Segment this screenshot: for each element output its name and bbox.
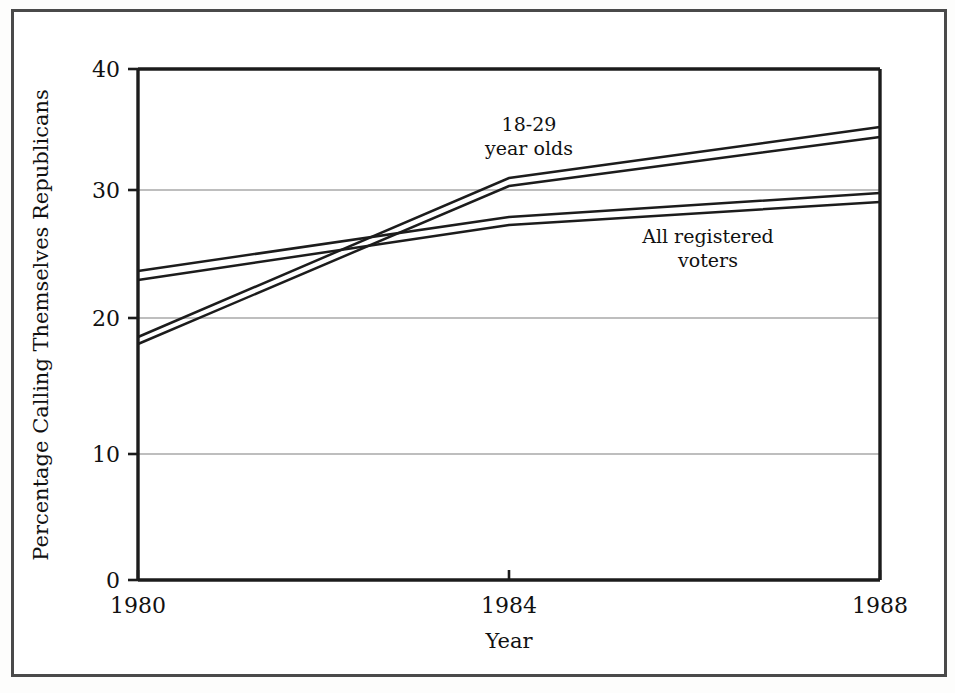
x-tick-label-1988: 1988 (852, 593, 908, 618)
figure-canvas: 40 30 20 10 0 1980 1984 1988 Percentage … (0, 0, 955, 693)
y-tick-label-30: 30 (92, 178, 120, 203)
annotation-youth-line1: 18-29 (502, 113, 557, 135)
x-axis-title: Year (484, 629, 533, 653)
annotation-youth-line2: year olds (484, 137, 573, 159)
x-tick-labels: 1980 1984 1988 (110, 593, 908, 618)
annotation-voters-line2: voters (677, 249, 738, 271)
y-tick-labels: 40 30 20 10 0 (92, 57, 120, 593)
y-tick-label-40: 40 (92, 57, 120, 82)
y-tick-label-20: 20 (92, 306, 120, 331)
annotation-all-registered-voters: All registered voters (641, 225, 774, 271)
y-tick-label-10: 10 (92, 442, 120, 467)
x-tick-label-1984: 1984 (481, 593, 537, 618)
annotation-18-29-year-olds: 18-29 year olds (484, 113, 573, 159)
x-tick-label-1980: 1980 (110, 593, 166, 618)
line-chart: 40 30 20 10 0 1980 1984 1988 Percentage … (0, 0, 955, 693)
annotation-voters-line1: All registered (641, 225, 774, 247)
y-axis-title: Percentage Calling Themselves Republican… (29, 89, 53, 560)
y-tick-label-0: 0 (106, 568, 120, 593)
